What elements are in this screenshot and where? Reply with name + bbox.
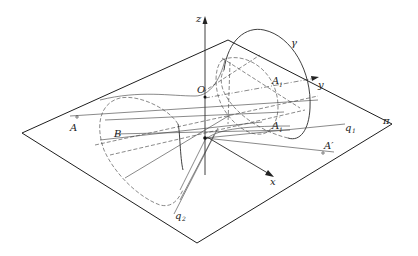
hyperboloid-diagram: z γ y π x A B O A 1 A ′ 1 A′ q 1 q 2 <box>0 0 418 256</box>
inner-ellipse-right <box>216 58 278 135</box>
label-q2-sub: 2 <box>181 215 186 222</box>
y-axis <box>205 78 316 98</box>
label-A1prime-sub: 1 <box>279 126 283 133</box>
point-Aprime <box>322 152 324 154</box>
generator-line-upper-1 <box>203 55 260 92</box>
label-q1: q <box>345 122 351 133</box>
label-Aprime: A′ <box>323 140 334 151</box>
generator-line-4 <box>125 115 230 178</box>
generator-line-Aprime <box>205 138 334 152</box>
label-B: B <box>113 128 121 139</box>
point-center <box>203 136 207 140</box>
label-gamma: γ <box>291 37 297 48</box>
generator-line-1 <box>70 100 318 116</box>
label-q2: q <box>175 210 181 221</box>
x-axis <box>207 137 271 175</box>
label-A1-sub: 1 <box>279 81 283 88</box>
label-A1prime: A <box>271 120 279 131</box>
label-q1-sub: 1 <box>352 127 356 134</box>
z-axis-arrow-icon <box>203 16 208 24</box>
generator-line-q2b <box>180 135 214 200</box>
top-ellipse-gamma <box>224 29 310 138</box>
generator-line-q2 <box>174 128 218 214</box>
plane-pi <box>22 40 392 243</box>
label-O: O <box>197 84 205 95</box>
label-y: y <box>317 79 324 90</box>
point-O <box>204 96 207 99</box>
generator-line-3 <box>105 112 284 120</box>
label-A1prime-mark: ′ <box>279 115 281 122</box>
label-A: A <box>69 122 77 133</box>
label-A1: A <box>271 75 279 86</box>
point-A <box>76 116 78 118</box>
silhouette-upper <box>100 60 225 100</box>
label-x: x <box>270 176 276 187</box>
label-z: z <box>195 13 202 24</box>
label-pi: π <box>382 115 390 126</box>
